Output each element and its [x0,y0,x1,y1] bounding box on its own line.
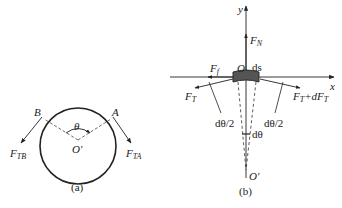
normal-force-label: FN [249,34,263,48]
y-axis-label: y [237,3,243,15]
tension-left-label: FT [184,90,197,104]
half-angle-right-label: dθ/2 [264,117,283,129]
belt-friction-diagram: B A θ O′ FTB FTA (a) y x FN O ds [0,0,342,208]
ds-label: ds [252,61,262,73]
normal-left-line [209,82,221,113]
origin-label: O [237,62,245,74]
tension-right-arrow [260,79,300,88]
friction-force-label: Ff [209,62,221,76]
figure-b: y x FN O ds Ff FT FT+dFT dθ/2 dθ/2 dθ O′… [170,3,335,198]
force-ta-label: FTA [125,147,142,161]
caption-b: (b) [239,185,252,198]
force-tb-label: FTB [9,147,26,161]
radial-right [246,82,256,170]
center-b-label: O′ [249,170,260,182]
theta-label: θ [74,120,80,132]
tension-left-arrow [195,79,233,88]
x-axis-label: x [329,80,335,92]
radial-left [238,82,246,170]
caption-a: (a) [71,181,84,194]
center-a-label: O′ [72,143,83,155]
figure-a: B A θ O′ FTB FTA (a) [9,106,142,194]
half-angle-left-label: dθ/2 [215,117,234,129]
dtheta-label: dθ [252,128,263,140]
normal-right-line [275,82,283,113]
tension-right-label: FT+dFT [292,90,329,104]
point-a-label: A [111,106,119,118]
force-tb-arrow [21,117,42,143]
point-b-label: B [34,106,41,118]
